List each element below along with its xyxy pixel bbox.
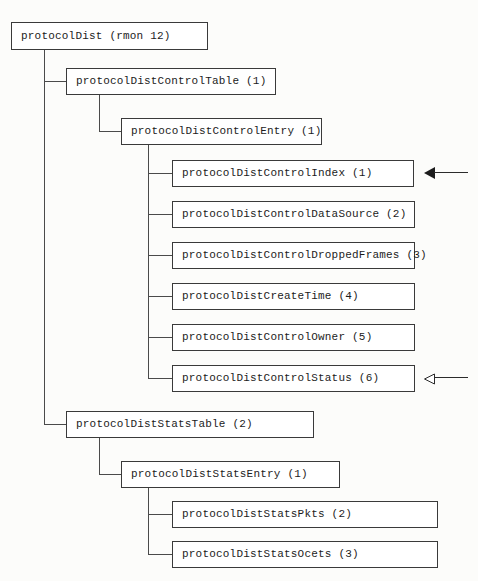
connector-control-entry-to-leaf-2 xyxy=(148,214,173,215)
connector-stats-entry-trunk xyxy=(148,488,149,555)
arrow-shaft xyxy=(434,172,468,173)
node-label: protocolDistStatsTable (2) xyxy=(76,419,253,430)
node-label: protocolDistControlIndex (1) xyxy=(182,168,372,179)
node-label: protocolDistStatsPkts (2) xyxy=(182,509,352,520)
node-label: protocolDistControlOwner (5) xyxy=(182,332,372,343)
arrowhead-solid-icon xyxy=(424,167,435,179)
connector-control-table-to-entry xyxy=(99,131,122,132)
hollow-arrow-annotation xyxy=(424,372,468,384)
node-control-droppedframes[interactable]: protocolDistControlDroppedFrames (3) xyxy=(172,242,415,269)
node-label: protocolDistCreateTime (4) xyxy=(182,291,359,302)
solid-arrow-annotation xyxy=(424,167,468,179)
connector-root-to-control-table xyxy=(44,81,67,82)
connector-root-to-stats-table xyxy=(44,424,67,425)
node-stats-ocets[interactable]: protocolDistStatsOcets (3) xyxy=(172,541,438,568)
mib-tree-diagram: protocolDist (rmon 12) protocolDistContr… xyxy=(0,0,478,581)
connector-control-table-trunk xyxy=(99,94,100,132)
node-stats-pkts[interactable]: protocolDistStatsPkts (2) xyxy=(172,501,438,528)
connector-stats-entry-to-leaf-1 xyxy=(148,514,173,515)
connector-control-entry-to-leaf-5 xyxy=(148,337,173,338)
node-stats-entry[interactable]: protocolDistStatsEntry (1) xyxy=(121,461,340,488)
node-root[interactable]: protocolDist (rmon 12) xyxy=(11,22,208,50)
connector-stats-table-trunk xyxy=(99,437,100,475)
node-label: protocolDistControlDroppedFrames (3) xyxy=(182,250,427,261)
node-control-owner[interactable]: protocolDistControlOwner (5) xyxy=(172,324,415,351)
node-control-entry[interactable]: protocolDistControlEntry (1) xyxy=(121,118,322,145)
connector-stats-table-to-entry xyxy=(99,474,122,475)
connector-control-entry-to-leaf-4 xyxy=(148,296,173,297)
node-label: protocolDist (rmon 12) xyxy=(21,31,171,42)
node-control-status[interactable]: protocolDistControlStatus (6) xyxy=(172,365,415,392)
node-control-index[interactable]: protocolDistControlIndex (1) xyxy=(172,160,414,187)
node-control-datasource[interactable]: protocolDistControlDataSource (2) xyxy=(172,201,415,228)
node-label: protocolDistControlStatus (6) xyxy=(182,373,379,384)
connector-root-trunk xyxy=(44,50,45,425)
connector-control-entry-to-leaf-1 xyxy=(148,173,173,174)
node-label: protocolDistStatsOcets (3) xyxy=(182,549,359,560)
connector-control-entry-trunk xyxy=(148,145,149,378)
node-stats-table[interactable]: protocolDistStatsTable (2) xyxy=(66,411,314,438)
connector-stats-entry-to-leaf-2 xyxy=(148,554,173,555)
connector-control-entry-to-leaf-3 xyxy=(148,255,173,256)
arrow-shaft xyxy=(434,377,468,378)
node-label: protocolDistControlDataSource (2) xyxy=(182,209,406,220)
connector-control-entry-to-leaf-6 xyxy=(148,378,173,379)
node-label: protocolDistStatsEntry (1) xyxy=(131,469,308,480)
node-control-table[interactable]: protocolDistControlTable (1) xyxy=(66,68,276,95)
node-createtime[interactable]: protocolDistCreateTime (4) xyxy=(172,283,415,310)
node-label: protocolDistControlTable (1) xyxy=(76,76,266,87)
arrowhead-hollow-icon xyxy=(424,372,435,384)
node-label: protocolDistControlEntry (1) xyxy=(131,126,321,137)
